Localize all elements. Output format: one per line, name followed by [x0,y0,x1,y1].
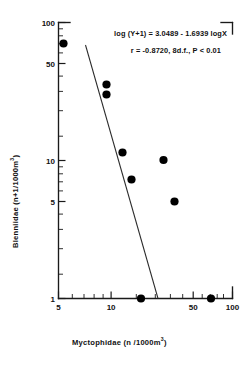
y-tick-label-100: 100 [42,19,56,28]
regression-statistics: r = -0.8720, 8d.f., P < 0.01 [131,46,221,55]
y-tick-label-5: 5 [51,198,56,207]
x-tick-label-10: 10 [107,303,116,312]
data-point [118,148,126,156]
y-tick-label-50: 50 [46,60,55,69]
data-point [127,175,135,183]
x-axis-title-main: Myctophidae (n /1000m [72,338,161,347]
svg-text:Myctophidae (n /1000m3): Myctophidae (n /1000m3) [72,336,167,347]
data-point [102,80,110,88]
x-axis-ticks [59,292,233,299]
data-points [59,39,215,302]
data-point [207,294,215,302]
x-axis-title: Myctophidae (n /1000m3) [72,336,167,347]
x-tick-label-100: 100 [226,303,240,312]
y-axis-title-main: Blenniidae (n+1/1000m [11,161,20,248]
y-tick-label-10: 10 [46,157,55,166]
x-axis-tick-labels: 5 10 50 100 [56,303,239,312]
x-axis-title-close: ) [164,338,167,347]
data-point [170,197,178,205]
regression-equation: log (Y+1) = 3.0489 - 1.6939 logX [114,29,227,38]
x-tick-label-5: 5 [56,303,61,312]
data-point [137,294,145,302]
data-point [59,39,67,47]
regression-annotation: log (Y+1) = 3.0489 - 1.6939 logX r = -0.… [114,29,227,55]
y-axis-title: Blenniidae (n+1/1000m3) [9,155,20,248]
y-axis-ticks [59,23,66,299]
data-point [159,156,167,164]
y-axis-tick-labels: 100 50 10 5 1 [42,19,56,304]
axis-frame [59,23,233,299]
y-axis-title-close: ) [11,155,20,158]
figure-container: 100 50 10 5 1 [0,0,250,365]
data-point [102,90,110,98]
y-tick-label-1: 1 [51,295,56,304]
scatter-plot: 100 50 10 5 1 [0,0,250,365]
svg-text:Blenniidae (n+1/1000m3): Blenniidae (n+1/1000m3) [9,155,20,248]
x-tick-label-50: 50 [189,303,198,312]
regression-line [86,45,159,299]
